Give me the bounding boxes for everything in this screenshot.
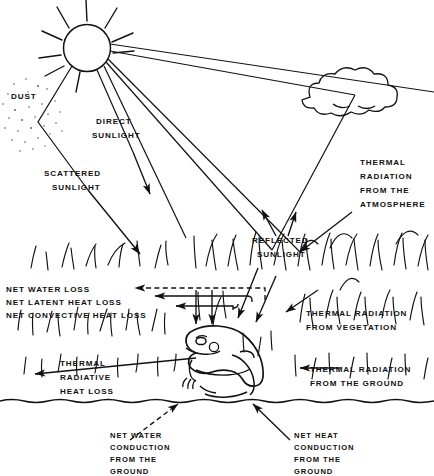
ground-line	[0, 400, 434, 403]
net-convective-heat-loss-label: NET CONVECTIVE HEAT LOSS	[6, 311, 147, 320]
thermal-vegetation-line1: THERMAL RADIATION	[306, 309, 407, 318]
net-water-conduction-line4: GROUND	[110, 467, 149, 476]
net-latent-heat-loss-label: NET LATENT HEAT LOSS	[6, 298, 122, 307]
reflected-sunlight-line2: SUNLIGHT	[257, 250, 306, 259]
label-thermal-radiative-heat-loss: THERMAL RADIATIVE HEAT LOSS	[60, 359, 114, 396]
energy-balance-diagram: DUST	[0, 0, 434, 476]
net-water-conduction-line2: CONDUCTION	[110, 443, 170, 452]
thermal-ground-line1: THERMAL RADIATION	[310, 365, 411, 374]
label-reflected-sunlight: REFLECTED SUNLIGHT	[252, 236, 309, 259]
label-net-water-conduction: NET WATER CONDUCTION FROM THE GROUND	[110, 431, 170, 476]
label-thermal-atmosphere: THERMAL RADIATION FROM THE ATMOSPHERE	[360, 158, 426, 209]
thermal-atmosphere-line2: RADIATION	[360, 172, 412, 181]
thermal-ground-line2: FROM THE GROUND	[310, 379, 404, 388]
diagram-canvas: DUST	[0, 0, 434, 476]
net-heat-conduction-arrow	[253, 404, 290, 440]
thermal-atmosphere-line4: ATMOSPHERE	[360, 200, 426, 209]
direct-sunlight-line1: DIRECT	[96, 117, 132, 126]
reflected-sunlight-line1: REFLECTED	[252, 236, 309, 245]
flux-arrows	[88, 152, 352, 368]
thermal-radiative-line2: RADIATIVE	[60, 373, 111, 382]
net-heat-conduction-line3: FROM THE	[294, 455, 341, 464]
dust-label: DUST	[11, 92, 37, 101]
net-water-conduction-line3: FROM THE	[110, 455, 157, 464]
scattered-sunlight-line2: SUNLIGHT	[52, 183, 101, 192]
label-net-heat-conduction: NET HEAT CONDUCTION FROM THE GROUND	[294, 431, 354, 476]
thermal-atmosphere-line1: THERMAL	[360, 158, 406, 167]
net-water-conduction-line1: NET WATER	[110, 431, 162, 440]
scattered-sunlight-line1: SCATTERED	[44, 169, 101, 178]
label-thermal-vegetation: THERMAL RADIATION FROM VEGETATION	[306, 309, 407, 332]
thermal-vegetation-line2: FROM VEGETATION	[306, 323, 397, 332]
thermal-radiative-line1: THERMAL	[60, 359, 106, 368]
net-heat-conduction-line4: GROUND	[294, 467, 333, 476]
label-scattered-sunlight: SCATTERED SUNLIGHT	[44, 169, 101, 192]
thermal-radiative-line3: HEAT LOSS	[60, 387, 114, 396]
frog-icon	[183, 326, 263, 397]
net-heat-conduction-line1: NET HEAT	[294, 431, 339, 440]
net-water-loss-label: NET WATER LOSS	[6, 285, 90, 294]
dust-speckles	[2, 78, 63, 152]
net-heat-conduction-line2: CONDUCTION	[294, 443, 354, 452]
sunbeam-lines	[38, 44, 434, 252]
thermal-atmosphere-line3: FROM THE	[360, 186, 409, 195]
label-thermal-ground: THERMAL RADIATION FROM THE GROUND	[310, 365, 411, 388]
direct-sunlight-line2: SUNLIGHT	[92, 131, 141, 140]
